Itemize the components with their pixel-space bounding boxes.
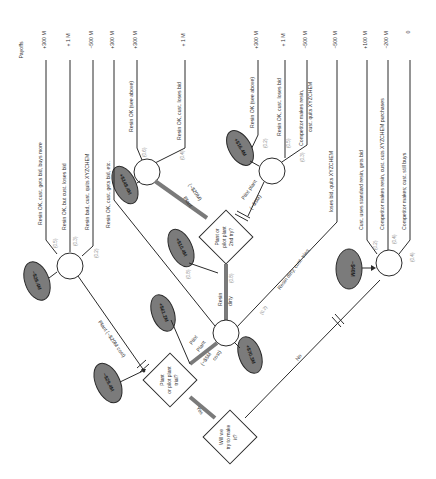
payoff-7: +300 M [253,31,259,48]
branch-pilot-first-1: Pilot [188,333,199,345]
ev-ellipse-d [336,249,362,289]
prob-b2: (0.4) [180,150,185,160]
outcome-d3: Competitor makes; cust. still buys [401,152,407,230]
branch-pilot-second-2: (~$5M) [248,193,263,210]
prob-c2: (0.5) [286,138,291,148]
branch-resin-dirty-tries: Resin dirty, cust. tries, [276,247,311,291]
outcome-b2: Resin OK, cust. loses bid [176,82,182,140]
chance-node-c-group: Resin OK (see above) Resin OK, cust. los… [221,60,313,184]
branch-resin-ok-etc: Resin OK, cust. gets bid, etc. [105,161,111,228]
outcome-b1: Resin OK (see above) [128,81,134,132]
prob-d1: (0.2) [373,240,378,250]
decision-make-group: Will we try to make it? [203,410,257,464]
prob-dirty: (0.8) [229,273,234,283]
svg-text:Plant or: Plant or [214,228,220,246]
chance-node-a [57,253,83,279]
payoff-10: −500 M [332,31,338,48]
branch-loses-bid: loses bid, quits XYZCHEM [328,151,334,212]
chance-node-b-group: Resin OK (see above) Resin OK, cust. los… [107,60,185,208]
payoff-12: −200 M [383,31,389,48]
payoff-13: 0 [405,30,411,33]
svg-text:it?: it? [232,434,238,440]
payoff-9: −500 M [302,31,308,48]
decision-tree: Payoffs +300 M + 1 M −500 M +300 M +300 … [0,0,436,479]
payoff-4: +300 M [109,31,115,48]
svg-text:trial?: trial? [173,374,179,385]
outcome-c2: Resin OK, cust. loses bid [276,78,282,136]
ev-d: −$40M [350,261,356,276]
branch-resin-dirty-2: dirty [227,296,233,306]
payoff-8: + 1 M [280,33,286,46]
branch-resin-dirty-1: Resin [217,293,223,306]
payoffs-header: Payoffs [18,41,24,59]
chance-node-c [259,158,285,184]
svg-text:pilot plant: pilot plant [221,226,227,248]
prob-a3: (0.2) [94,248,99,258]
prob-a1: (0.5) [53,238,58,248]
payoff-5: +300 M [132,31,138,48]
chance-node-a-group: Resin OK, cust. gets bid, buys more Resi… [19,60,145,372]
outcome-c3a: Competitor makes resin, [298,90,304,146]
svg-text:2nd try?: 2nd try? [228,228,234,246]
decision-trial-group: Plant or pilot plant trial? −$29.4M [88,353,197,407]
prob-a2: (0.3) [73,236,78,246]
payoffs-column: Payoffs +300 M + 1 M −500 M +300 M +300 … [18,30,411,58]
outcome-d2: Competitor makes resin, cust. cuts XYZCH… [379,98,385,230]
chance-node-mid [213,320,239,346]
payoff-1: +300 M [41,31,47,48]
prob-d3: (0.4) [410,252,415,262]
svg-text:try to make: try to make [225,424,231,449]
prob-mid-dirty: (0.2) [259,305,269,316]
prob-c3: (0.3) [300,152,305,162]
payoff-11: +100 M [362,31,368,48]
chance-node-d [376,250,402,276]
prob-c1: (0.2) [263,138,268,148]
outcome-a1: Resin OK, cust. gets bid, buys more [37,142,43,225]
prob-b1: (0.6) [142,147,147,157]
svg-text:Will we: Will we [218,429,224,445]
svg-text:or pilot plant: or pilot plant [166,366,172,394]
outcome-a2: Resin OK, but cust. loses bid [61,163,67,230]
outcome-d1: Cust. uses standard resin, gets bid [358,150,364,230]
chance-node-d-group: Cust. uses standard resin, gets bid Comp… [336,60,415,289]
branch-pilot-first-4: cost) [211,349,223,362]
payoff-3: −500 M [88,31,94,48]
payoff-6: + 1 M [180,33,186,46]
payoff-2: + 1 M [65,33,71,46]
svg-text:Plant: Plant [159,374,165,386]
prob-mid-ok: (0.8) [186,269,191,279]
outcome-c3b: cust. quits XYZCHEM [307,82,313,132]
outcome-a3: Resin bad, cust. quits XYZCHEM [84,154,90,230]
prob-d2: (0.4) [392,234,397,244]
outcome-c1: Resin OK (see above) [249,77,255,128]
decision-second-try-group: Plant or pilot plant 2nd try? +$10.4M [163,210,253,273]
